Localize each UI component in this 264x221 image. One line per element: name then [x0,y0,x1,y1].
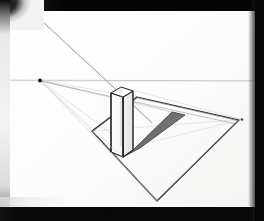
vanishing-point-right-marker [241,118,244,121]
photo-border-bottom [0,207,264,221]
vanishing-point-left-marker [38,79,42,83]
photo-border-left [0,0,10,221]
building-face-right [123,91,133,157]
photo-border-right [255,0,264,221]
perspective-drawing [0,0,264,221]
drawing-photo [0,0,264,221]
